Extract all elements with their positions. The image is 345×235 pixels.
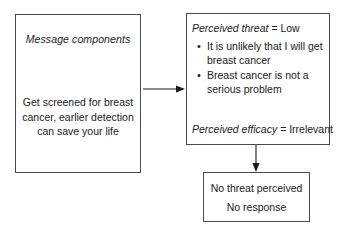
perceived-efficacy-label: Perceived efficacy <box>192 123 277 135</box>
perceived-efficacy-value: Irrelevant <box>289 123 333 135</box>
arrow-down-icon <box>246 144 266 174</box>
message-components-body: Get screened for breast cancer, earlier … <box>20 95 136 139</box>
list-item: It is unlikely that I will get breast ca… <box>207 40 326 67</box>
perceived-threat-line: Perceived threat = Low <box>192 21 300 35</box>
arrow-right-icon <box>141 80 187 98</box>
message-components-heading: Message components <box>16 33 140 46</box>
perceived-efficacy-line: Perceived efficacy = Irrelevant <box>192 122 333 136</box>
perceived-threat-separator: = <box>268 22 280 34</box>
outcome-box: No threat perceived No response <box>203 172 310 222</box>
message-components-box: Message components Get screened for brea… <box>15 14 141 173</box>
flowchart-diagram: Message components Get screened for brea… <box>0 0 345 235</box>
perceived-threat-label: Perceived threat <box>192 22 268 34</box>
belief-list: It is unlikely that I will get breast ca… <box>195 40 326 98</box>
perceived-threat-value: Low <box>280 22 299 34</box>
perceived-efficacy-separator: = <box>277 123 289 135</box>
outcome-no-threat-perceived: No threat perceived <box>204 182 309 195</box>
outcome-no-response: No response <box>204 201 309 214</box>
list-item: Breast cancer is not a serious problem <box>207 69 326 96</box>
appraisal-box: Perceived threat = Low It is unlikely th… <box>186 13 330 145</box>
